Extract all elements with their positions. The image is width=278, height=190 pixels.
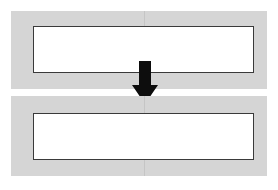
diagram-canvas xyxy=(0,0,278,190)
step-after-band xyxy=(11,96,267,176)
step-after-inner-rectangle xyxy=(33,113,254,160)
